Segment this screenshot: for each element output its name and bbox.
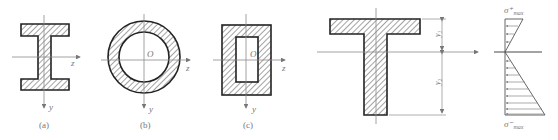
y-label-a: y <box>48 102 53 112</box>
y-label-b: y <box>148 104 153 114</box>
caption-b: (b) <box>140 120 151 130</box>
section-b-hollow-circle: O z y (b) <box>101 14 190 130</box>
section-c-hollow-rectangle: O z y (c) <box>213 14 286 130</box>
z-label-a: z <box>70 58 75 68</box>
stress-distribution-diagram: σ⁺max σ⁻max <box>494 5 545 130</box>
origin-label-c: O <box>250 49 257 59</box>
t-section: y₁ y₂ <box>317 8 478 124</box>
y-label-c: y <box>251 104 256 114</box>
caption-c: (c) <box>243 120 253 130</box>
sigma-max-tension-label: σ⁺max <box>504 5 524 16</box>
z-label-b: z <box>185 63 190 73</box>
y1-label: y₁ <box>433 30 442 38</box>
origin-label-b: O <box>147 49 154 59</box>
sigma-max-compression-label: σ⁻max <box>504 119 524 130</box>
caption-a: (a) <box>39 120 49 130</box>
cross-section-figure: z y (a) O z y (b) O z y (c) y₁ y₂ <box>0 0 558 140</box>
section-a-i-beam: z y (a) <box>12 15 80 130</box>
y2-label: y₂ <box>433 78 442 86</box>
z-label-c: z <box>281 63 286 73</box>
